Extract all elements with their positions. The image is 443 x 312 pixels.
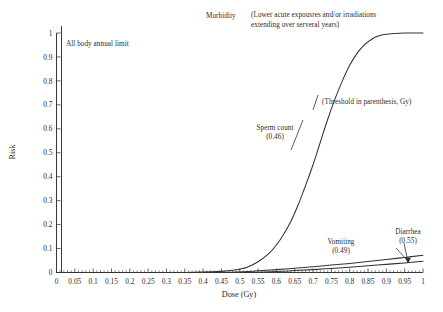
x-tick-label: 0 (55, 277, 59, 286)
x-tick-label: 0.35 (178, 277, 191, 286)
y-axis-ticks: 00.10.20.30.40.50.60.70.80.91 (43, 29, 60, 278)
y-tick-label: 0.3 (43, 196, 53, 205)
y-tick-label: 0.2 (43, 220, 53, 229)
risk-vs-dose-chart: 00.050.10.150.20.250.30.350.40.450.50.55… (0, 0, 443, 312)
x-tick-label: 1 (421, 277, 425, 286)
series-line-sperm-count (57, 33, 424, 273)
series-label-vomiting: Vomiting (318, 238, 364, 247)
x-tick-label: 0.7 (308, 277, 318, 286)
series-lines (57, 33, 424, 273)
annotation-morbidity: Morbidity (206, 12, 236, 21)
x-tick-label: 0.15 (105, 277, 118, 286)
x-tick-label: 0.65 (288, 277, 301, 286)
x-tick-label: 0.05 (68, 277, 81, 286)
y-tick-label: 0.7 (43, 100, 53, 109)
axes-group (57, 26, 424, 273)
x-tick-label: 0.75 (325, 277, 338, 286)
x-tick-label: 0.2 (125, 277, 135, 286)
annotation-exposure-note-line1: (Lower acute expousres and/or irradiatio… (251, 11, 376, 20)
annotation-exposure-note-line2: extending over serveral years) (251, 21, 339, 30)
series-threshold-vomiting: (0.49) (318, 247, 364, 256)
annotation-annual-limit: All body annual limit (66, 40, 129, 49)
series-label-sperm-count: Sperm count (246, 124, 304, 133)
x-tick-label: 0.4 (198, 277, 208, 286)
y-tick-label: 0 (49, 268, 53, 277)
y-axis-title: Risk (8, 144, 17, 160)
series-label-diarrhea: Diarrhea (385, 228, 431, 237)
x-tick-label: 0.5 (235, 277, 245, 286)
y-tick-label: 0.8 (43, 77, 53, 86)
x-tick-label: 0.25 (142, 277, 155, 286)
y-tick-label: 0.1 (43, 244, 53, 253)
x-tick-label: 0.85 (362, 277, 375, 286)
x-axis-title: Dose (Gy) (222, 290, 257, 299)
x-axis-ticks: 00.050.10.150.20.250.30.350.40.450.50.55… (55, 269, 426, 286)
x-tick-label: 0.55 (252, 277, 265, 286)
y-tick-label: 0.9 (43, 53, 53, 62)
x-tick-label: 0.1 (89, 277, 99, 286)
annotation-threshold-note: (Threshold in parenthesis, Gy) (322, 98, 411, 107)
y-tick-label: 0.4 (43, 172, 53, 181)
y-tick-label: 0.6 (43, 124, 53, 133)
x-tick-label: 0.6 (272, 277, 282, 286)
series-threshold-sperm-count: (0.46) (246, 133, 304, 142)
y-tick-label: 0.5 (43, 148, 53, 157)
x-tick-label: 0.95 (398, 277, 411, 286)
x-tick-label: 0.3 (162, 277, 172, 286)
y-tick-label: 1 (49, 29, 53, 38)
x-tick-label: 0.9 (382, 277, 392, 286)
threshold-note-leader (313, 95, 318, 110)
x-tick-label: 0.45 (215, 277, 228, 286)
series-threshold-diarrhea: (0.55) (385, 237, 431, 246)
x-tick-label: 0.8 (345, 277, 355, 286)
